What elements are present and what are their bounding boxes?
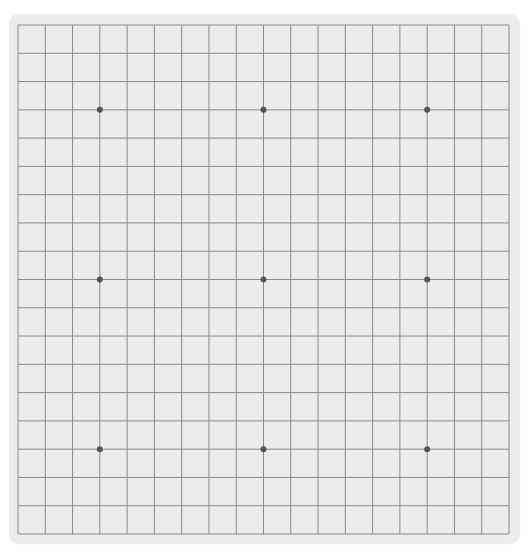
star-point <box>261 107 267 113</box>
board-grid[interactable] <box>9 14 520 544</box>
star-point <box>424 107 430 113</box>
star-point <box>424 277 430 283</box>
star-point <box>97 277 103 283</box>
star-point <box>424 446 430 452</box>
star-point <box>261 277 267 283</box>
star-point <box>97 446 103 452</box>
go-board[interactable] <box>9 14 520 544</box>
star-point <box>261 446 267 452</box>
star-point <box>97 107 103 113</box>
